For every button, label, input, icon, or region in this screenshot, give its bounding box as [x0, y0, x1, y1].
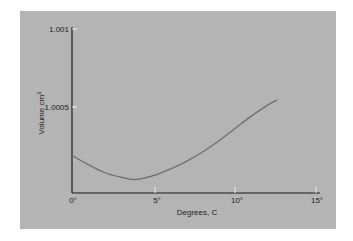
volume-curve — [72, 100, 277, 180]
y-tick-label: 1.001 — [49, 25, 70, 34]
y-axis-label: Volume cm3 — [36, 91, 46, 135]
x-tick-label: 15° — [311, 196, 323, 205]
x-tick-label: 5° — [153, 196, 161, 205]
y-tick-label: 1.0005 — [45, 103, 70, 112]
x-axis-label: Degrees, C — [177, 208, 218, 217]
x-tick-label: 10° — [231, 196, 243, 205]
x-tick-label: 0° — [69, 196, 77, 205]
line-chart: 1.001 1.0005 0° 5° 10° 15° Degrees, C Vo… — [0, 0, 353, 241]
